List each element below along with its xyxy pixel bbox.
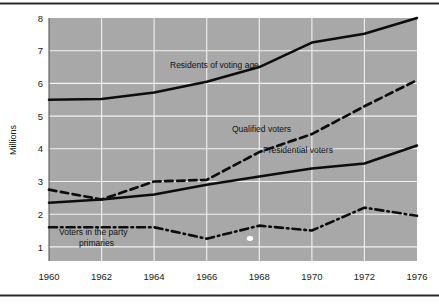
y-tick-1: 1	[38, 242, 43, 253]
voter-trends-line-chart: 8 7 6 5 4 3 2 1 Millions 1960 1962 1964 …	[0, 0, 439, 308]
x-tick-1966: 1966	[196, 271, 217, 282]
annotation-qualified-voters: Qualified voters	[232, 124, 291, 134]
y-tick-7: 7	[38, 45, 43, 56]
plot-area-background	[49, 18, 417, 261]
y-tick-8: 8	[38, 13, 43, 24]
x-tick-1964: 1964	[144, 271, 165, 282]
chart-container: 8 7 6 5 4 3 2 1 Millions 1960 1962 1964 …	[0, 0, 439, 308]
x-tick-1962: 1962	[91, 271, 112, 282]
annotation-party-primaries-line1: Voters in the party	[59, 227, 128, 237]
x-tick-1972: 1972	[354, 271, 375, 282]
x-tick-1970: 1970	[301, 271, 322, 282]
x-tick-1968: 1968	[249, 271, 270, 282]
image-speck-artifact	[247, 236, 253, 241]
y-tick-3: 3	[38, 176, 43, 187]
x-tick-1960: 1960	[38, 271, 59, 282]
y-axis-title: Millions	[8, 125, 18, 156]
y-tick-4: 4	[38, 143, 43, 154]
y-axis-tick-labels: 8 7 6 5 4 3 2 1	[38, 13, 43, 253]
y-tick-2: 2	[38, 209, 43, 220]
annotation-party-primaries-line2: primaries	[79, 238, 114, 248]
y-tick-5: 5	[38, 111, 43, 122]
annotation-presidential-voters: Presidential voters	[263, 145, 333, 155]
x-tick-1976: 1976	[406, 271, 427, 282]
x-axis-tick-labels: 1960 1962 1964 1966 1968 1970 1972 1976	[38, 271, 427, 282]
y-tick-6: 6	[38, 78, 43, 89]
annotation-residents-of-voting-age: Residents of voting age	[170, 60, 259, 70]
